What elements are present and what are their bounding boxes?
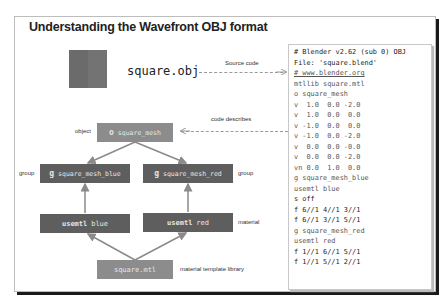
code-line: v -1.0 0.0 0.0: [294, 121, 360, 132]
code-line: File: 'square.blend': [294, 58, 377, 69]
mtl-label: material template library: [180, 266, 244, 272]
code-line: g square_mesh_red: [294, 226, 365, 237]
object-box: o square_mesh: [97, 123, 173, 142]
group-red-name: square_mesh_red: [163, 170, 222, 178]
code-panel: # Blender v2.62 (sub 0) OBJ File: 'squar…: [288, 44, 432, 290]
code-line: s off: [294, 194, 315, 205]
object-name: square_mesh: [118, 129, 161, 137]
code-line: f 6//1 4//1 3//1: [294, 205, 360, 216]
usemtl-blue-name: blue: [91, 220, 108, 228]
usemtl-blue-box: usemtl blue: [40, 214, 130, 233]
code-line: mtllib square.mtl: [294, 79, 365, 90]
usemtl-red-name: red: [196, 219, 209, 227]
group-blue-name: square_mesh_blue: [58, 170, 121, 178]
code-line-link[interactable]: # www.blender.org: [294, 68, 365, 79]
usemtl-blue-keyword: usemtl: [62, 220, 87, 228]
code-line: v 1.0 0.0 -2.0: [294, 100, 360, 111]
code-line: o square_mesh: [294, 89, 348, 100]
code-line: vn 0.0 1.0 0.0: [294, 163, 360, 174]
mtl-name: square.mtl: [114, 266, 156, 274]
code-line: v 1.0 0.0 0.0: [294, 110, 360, 121]
code-line: # Blender v2.62 (sub 0) OBJ: [294, 47, 406, 58]
code-line: v 0.0 0.0 -2.0: [294, 152, 360, 163]
usemtl-red-box: usemtl red: [143, 213, 233, 232]
object-label: object: [75, 128, 91, 134]
code-line: g square_mesh_blue: [294, 173, 369, 184]
code-line: v 0.0 0.0 -0.0: [294, 142, 360, 153]
code-line: f 1//1 6//1 5//1: [294, 247, 360, 258]
code-line: f 1//1 5//1 2//1: [294, 257, 360, 268]
mtl-box: square.mtl: [97, 260, 173, 279]
code-line: usemtl red: [294, 236, 336, 247]
group-red-box: g square_mesh_red: [143, 164, 233, 183]
code-line: f 6//1 3//1 5//1: [294, 215, 360, 226]
group-blue-box: g square_mesh_blue: [40, 164, 130, 183]
group-blue-label: group: [19, 170, 34, 176]
code-line: v -1.0 0.0 -2.0: [294, 131, 360, 142]
usemtl-red-keyword: usemtl: [167, 219, 192, 227]
code-line: usemtl blue: [294, 184, 340, 195]
material-label: material: [238, 219, 259, 225]
group-red-label: group: [238, 170, 253, 176]
